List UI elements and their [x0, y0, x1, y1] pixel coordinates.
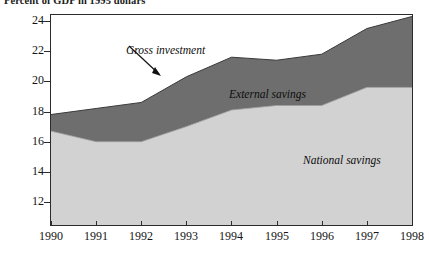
x-tick-label: 1996 [298, 229, 346, 244]
x-tick-1993: 1993 [186, 226, 187, 227]
label-national-savings: National savings [303, 154, 381, 166]
y-tick-label: 16 [32, 134, 44, 149]
x-tick-mark [186, 221, 187, 226]
plot-area: Gross investment External savings Nation… [50, 14, 413, 226]
x-tick-1994: 1994 [231, 226, 232, 227]
label-gross-investment: Gross investment [126, 44, 205, 56]
x-tick-label: 1991 [72, 229, 120, 244]
x-tick-1998: 1998 [412, 226, 413, 227]
y-tick-label: 12 [32, 194, 44, 209]
x-tick-label: 1993 [162, 229, 210, 244]
x-tick-1997: 1997 [367, 226, 368, 227]
stacked-area-plot [51, 15, 412, 225]
label-external-savings: External savings [229, 88, 306, 100]
x-tick-mark [51, 221, 52, 226]
x-tick-mark [141, 221, 142, 226]
chart-container: Percent of GDP in 1995 dollars 24 22 20 … [0, 0, 429, 267]
x-tick-mark [412, 221, 413, 226]
y-tick-label: 24 [32, 13, 44, 28]
x-tick-1990: 1990 [51, 226, 52, 227]
x-tick-mark [277, 221, 278, 226]
x-tick-mark [96, 221, 97, 226]
x-tick-1995: 1995 [277, 226, 278, 227]
x-tick-mark [322, 221, 323, 226]
x-tick-1991: 1991 [96, 226, 97, 227]
x-tick-label: 1998 [388, 229, 429, 244]
y-tick-label: 22 [32, 43, 44, 58]
x-tick-1996: 1996 [322, 226, 323, 227]
x-tick-label: 1992 [117, 229, 165, 244]
x-tick-mark [231, 221, 232, 226]
x-tick-label: 1994 [207, 229, 255, 244]
x-tick-1992: 1992 [141, 226, 142, 227]
y-tick-label: 20 [32, 73, 44, 88]
x-tick-label: 1997 [343, 229, 391, 244]
x-tick-mark [367, 221, 368, 226]
chart-title: Percent of GDP in 1995 dollars [4, 0, 145, 6]
y-tick-label: 18 [32, 104, 44, 119]
x-tick-label: 1995 [253, 229, 301, 244]
x-tick-label: 1990 [27, 229, 75, 244]
y-tick-label: 14 [32, 164, 44, 179]
